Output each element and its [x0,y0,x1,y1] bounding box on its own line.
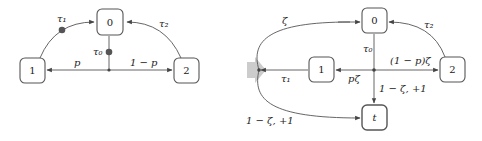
label-tau0: τ₀ [93,46,103,57]
label-1-minus-p-zeta: (1 − p)ζ [390,55,431,66]
junction-dot [107,68,110,71]
label-zeta: ζ [282,15,288,26]
left-junction-dot [257,68,261,72]
svg-text:0: 0 [371,15,377,26]
svg-text:2: 2 [449,64,455,75]
right-node-0: 0 [362,8,387,33]
left-node-0: 0 [97,9,123,35]
junction-dot [372,68,376,72]
left-diagram: 0 1 2 τ₁ τ₀ τ₂ p 1 − p [20,9,199,83]
svg-text:1: 1 [29,65,35,76]
right-node-1: 1 [309,57,334,82]
left-node-1: 1 [20,58,45,83]
label-p: p [74,57,81,68]
edge-1-to-0 [40,22,94,58]
label-tau1: τ₁ [57,13,67,24]
label-p-zeta: pζ [348,73,360,84]
label-1-minus-zeta-plus1-left: 1 − ζ, +1 [246,115,294,126]
label-tau2: τ₂ [424,19,434,30]
label-1-minus-p: 1 − p [130,57,158,68]
right-node-2: 2 [440,57,465,82]
edge-2-to-0 [127,22,181,58]
tau1-delay-dot [59,27,66,34]
label-tau0: τ₀ [363,43,373,54]
tau0-delay-dot [106,49,113,56]
svg-text:0: 0 [107,17,113,28]
label-tau2: τ₂ [159,18,169,29]
edge-2-to-0 [389,22,445,57]
label-1-minus-zeta-plus1-center: 1 − ζ, +1 [379,83,427,94]
right-node-t: t [362,105,387,130]
markov-chain-diagram: 0 1 2 τ₁ τ₀ τ₂ p 1 − p [0,0,482,141]
right-diagram: 0 1 2 t ζ τ₀ τ₁ τ₂ pζ (1 − p)ζ 1 − ζ, +1… [246,8,465,130]
label-tau1: τ₁ [281,73,291,84]
svg-text:2: 2 [183,65,189,76]
edge-zeta-upper [257,22,350,70]
left-node-2: 2 [174,58,199,83]
svg-text:1: 1 [318,64,324,75]
